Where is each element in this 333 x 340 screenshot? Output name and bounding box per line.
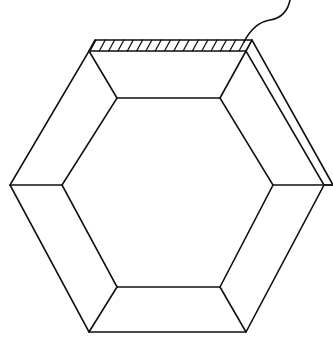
hatch-mark	[155, 40, 161, 51]
outer-hexagon	[10, 51, 324, 332]
hanging-string	[244, 0, 290, 42]
hatch-mark	[118, 40, 124, 51]
back-top-right-connector	[246, 40, 252, 51]
hatch-mark	[146, 40, 152, 51]
hatch-mark	[174, 40, 180, 51]
hatch-marks	[90, 40, 245, 51]
inner-hexagon	[62, 98, 273, 287]
hatch-mark	[137, 40, 143, 51]
hexagon-frame-drawing	[0, 0, 333, 340]
bevel-top-right	[220, 51, 246, 98]
hatch-mark	[109, 40, 115, 51]
hatch-mark	[230, 40, 236, 51]
hatch-mark	[165, 40, 171, 51]
hatch-mark	[127, 40, 133, 51]
hatch-mark	[90, 40, 96, 51]
bevel-top-left	[89, 51, 117, 98]
back-top-edge	[89, 40, 333, 185]
hatch-mark	[202, 40, 208, 51]
diagram-canvas	[0, 0, 333, 340]
hatch-mark	[220, 40, 226, 51]
hatch-mark	[211, 40, 217, 51]
hatch-mark	[99, 40, 105, 51]
hatch-mark	[183, 40, 189, 51]
bevel-bottom-right	[220, 287, 246, 332]
hatch-mark	[192, 40, 198, 51]
bevel-bottom-left	[89, 287, 117, 332]
